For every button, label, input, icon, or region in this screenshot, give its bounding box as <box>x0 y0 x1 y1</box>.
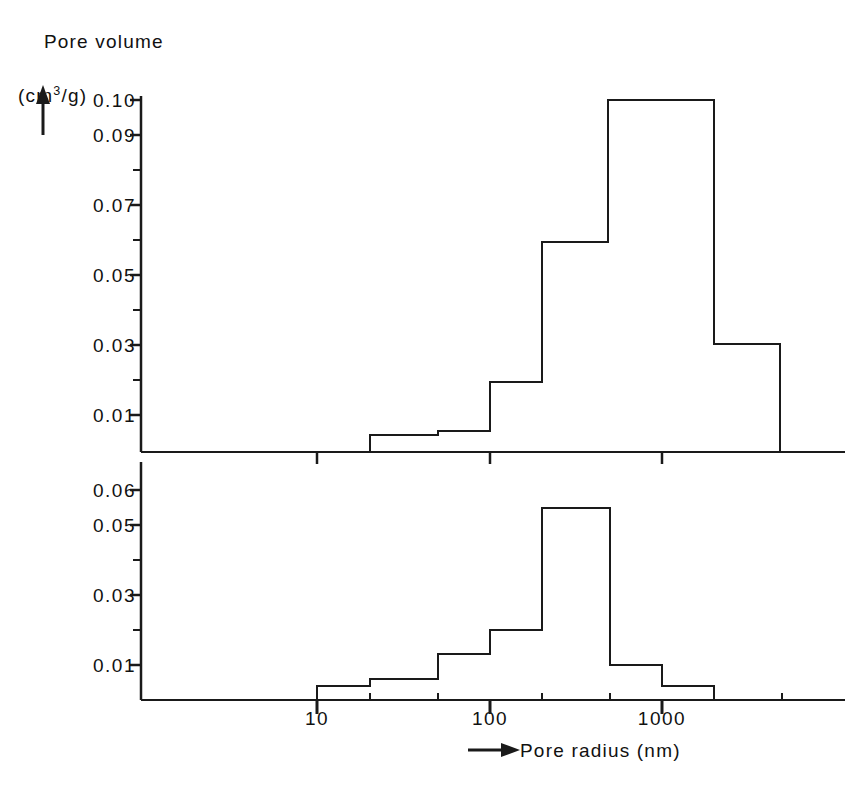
bottom-panel-axes <box>130 462 845 714</box>
right-arrow-icon <box>468 743 520 757</box>
figure-canvas <box>0 0 855 785</box>
top-panel-axes <box>130 96 845 464</box>
pore-size-distribution-figure: Pore volume (cm3/g) 0.10 0.09 0.07 0.05 … <box>0 0 855 785</box>
bottom-panel-histogram <box>317 508 714 700</box>
top-panel-histogram <box>370 100 780 452</box>
up-arrow-icon <box>36 85 50 135</box>
